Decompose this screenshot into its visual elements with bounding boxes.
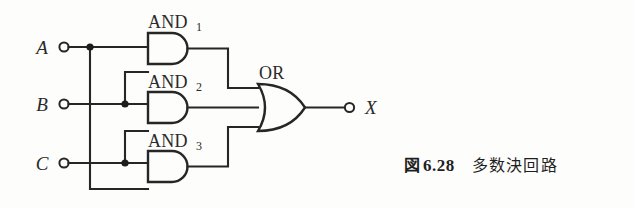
figure-page: A B C X AND 1 AND 2 AND 3 OR 図 6.28 多数決回… — [0, 0, 634, 208]
and-gate-1-label: AND — [148, 12, 188, 32]
caption-number: 6.28 — [423, 156, 455, 176]
circuit-diagram: A B C X AND 1 AND 2 AND 3 OR — [0, 0, 634, 208]
input-terminal-b-circle[interactable] — [59, 99, 68, 108]
and-gate-3-subscript: 3 — [196, 139, 202, 153]
caption-fig-word: 図 — [404, 152, 420, 176]
and-gate-3-label: AND — [148, 131, 188, 151]
junction-dot-a — [86, 43, 93, 50]
input-terminal-a-circle[interactable] — [59, 42, 68, 51]
wire-bus-b-to-and1 — [125, 72, 148, 104]
and-gate-1-subscript: 1 — [196, 20, 202, 34]
junction-dot-b — [121, 100, 128, 107]
wire-bus-c-to-and2 — [125, 131, 148, 163]
wire-bus-a-to-and3 — [90, 47, 148, 189]
input-label-c: C — [36, 153, 49, 174]
and-gate-3-body[interactable] — [148, 151, 188, 182]
and-gate-2-label: AND — [148, 72, 188, 92]
input-terminal-c-circle[interactable] — [59, 158, 68, 167]
output-label-x: X — [364, 97, 378, 118]
caption-title: 多数決回路 — [472, 152, 558, 176]
and-gate-2-body[interactable] — [148, 92, 187, 123]
or-gate-label: OR — [259, 63, 285, 83]
input-label-a: A — [34, 37, 48, 58]
output-terminal-x-circle[interactable] — [345, 103, 354, 112]
junction-dot-c — [121, 159, 128, 166]
input-label-b: B — [36, 94, 48, 115]
and-gate-1-body[interactable] — [148, 33, 188, 64]
or-gate-body[interactable] — [258, 84, 305, 131]
and-gate-2-subscript: 2 — [196, 80, 202, 94]
figure-caption: 図 6.28 多数決回路 — [404, 152, 630, 176]
